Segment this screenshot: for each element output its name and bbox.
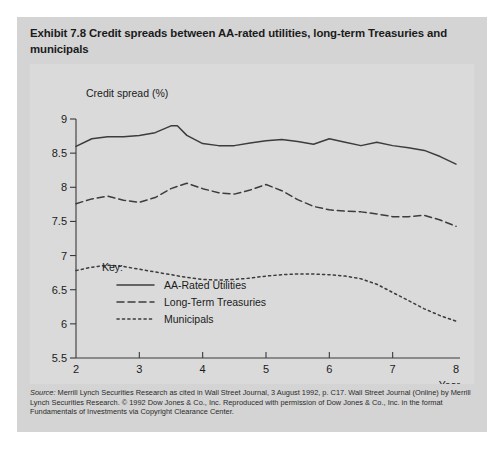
y-axis-title: Credit spread (%) (86, 87, 168, 99)
y-tick-label: 8 (61, 181, 67, 193)
series-line-municipals (76, 265, 456, 321)
series-line-aa-rated-utilities (76, 126, 456, 164)
source-text: Merrill Lynch Securities Research as cit… (30, 388, 471, 416)
x-tick-label: 5 (263, 363, 269, 375)
chart-plot-area: Credit spread (%)5.566.577.588.592345678… (30, 64, 474, 384)
x-tick-label: 2 (73, 363, 79, 375)
x-tick-label: 7 (390, 363, 396, 375)
x-axis-title: Year (439, 379, 461, 384)
legend-label-municipals: Municipals (164, 313, 214, 325)
exhibit-panel: Exhibit 7.8 Credit spreads between AA-ra… (17, 17, 487, 432)
source-note: Source: Merrill Lynch Securities Researc… (30, 388, 476, 417)
legend-title: Key: (102, 261, 123, 273)
y-tick-label: 8.5 (52, 147, 67, 159)
x-tick-label: 4 (200, 363, 206, 375)
y-tick-label: 6.5 (52, 284, 67, 296)
legend-label-aa-rated-utilities: AA-Rated Utilities (164, 279, 246, 291)
x-tick-label: 3 (136, 363, 142, 375)
legend-label-long-term-treasuries: Long-Term Treasuries (164, 296, 266, 308)
y-tick-label: 6 (61, 318, 67, 330)
y-tick-label: 7 (61, 250, 67, 262)
y-tick-label: 9 (61, 113, 67, 125)
series-line-long-term-treasuries (76, 183, 456, 226)
exhibit-title: Exhibit 7.8 Credit spreads between AA-ra… (30, 26, 476, 57)
x-tick-label: 6 (326, 363, 332, 375)
credit-spread-line-chart: Credit spread (%)5.566.577.588.592345678… (30, 64, 474, 384)
y-tick-label: 5.5 (52, 352, 67, 364)
x-tick-label: 8 (453, 363, 459, 375)
y-tick-label: 7.5 (52, 215, 67, 227)
source-label: Source: (30, 388, 55, 397)
